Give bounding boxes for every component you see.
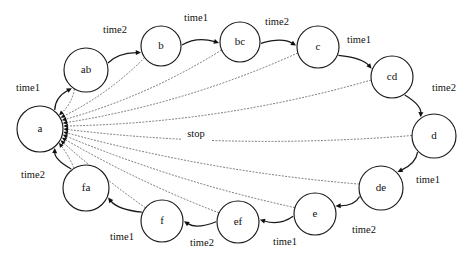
stop-label: stop (187, 128, 205, 139)
state-node-circle-b[interactable] (141, 26, 181, 66)
state-node-de[interactable]: de (359, 166, 403, 210)
edge-label-ef-to-f: time2 (190, 237, 214, 248)
transition-edge-ef-to-f (188, 222, 216, 226)
stop-edge-d-to-a (68, 130, 412, 142)
state-node-c[interactable]: c (297, 26, 339, 68)
state-node-ef[interactable]: ef (217, 201, 259, 243)
arrowhead-e-to-ef (260, 219, 266, 224)
edge-label-f-to-fa: time1 (110, 231, 134, 242)
arrowhead-b-to-bc (213, 39, 219, 44)
state-diagram-container: aabbbcccdddeeefffa time1time2time1time2t… (0, 0, 474, 262)
state-node-b[interactable]: b (141, 26, 181, 66)
state-node-cd[interactable]: cd (371, 56, 413, 98)
state-node-circle-fa[interactable] (63, 165, 109, 211)
state-node-circle-cd[interactable] (371, 56, 413, 98)
state-node-ab[interactable]: ab (64, 48, 108, 92)
transition-edge-e-to-ef (264, 216, 293, 222)
transition-edge-cd-to-d (405, 95, 421, 113)
transition-edge-bc-to-c (261, 40, 292, 43)
edge-label-bc-to-c: time2 (265, 16, 289, 27)
state-node-circle-d[interactable] (412, 114, 456, 158)
arrowhead-cd-to-d (418, 112, 423, 117)
edge-label-d-to-de: time1 (416, 174, 440, 185)
edge-label-fa-to-a: time2 (21, 169, 45, 180)
arrowhead-fa-to-a (52, 148, 57, 153)
edge-label-a-to-ab: time1 (16, 82, 40, 93)
edge-label-cd-to-d: time2 (432, 82, 456, 93)
state-node-circle-e[interactable] (294, 193, 336, 235)
transition-edge-de-to-e (340, 196, 360, 205)
state-node-d[interactable]: d (412, 114, 456, 158)
state-node-circle-f[interactable] (141, 200, 183, 242)
state-node-e[interactable]: e (294, 193, 336, 235)
stop-label-group: stop (181, 128, 211, 141)
transition-edge-a-to-ab (55, 90, 68, 110)
transition-edge-b-to-bc (182, 40, 215, 45)
arrowhead-stop-d-to-a (64, 127, 69, 131)
edge-label-de-to-e: time2 (352, 224, 376, 235)
state-node-a[interactable]: a (17, 106, 63, 152)
edge-label-ab-to-b: time2 (103, 24, 127, 35)
edge-label-e-to-ef: time1 (273, 236, 297, 247)
state-node-circle-c[interactable] (297, 26, 339, 68)
transition-edge-c-to-cd (338, 55, 368, 65)
state-node-f[interactable]: f (141, 200, 183, 242)
transition-edge-f-to-fa (111, 201, 142, 212)
state-nodes-group: aabbbcccdddeeefffa (17, 22, 456, 243)
edge-label-b-to-bc: time1 (184, 12, 208, 23)
state-node-fa[interactable]: fa (63, 165, 109, 211)
transition-edge-fa-to-a (55, 152, 72, 169)
arrowhead-ab-to-b (136, 50, 141, 55)
state-node-circle-de[interactable] (359, 166, 403, 210)
state-diagram-canvas: aabbbcccdddeeefffa time1time2time1time2t… (0, 0, 474, 262)
state-node-circle-a[interactable] (17, 106, 63, 152)
state-node-bc[interactable]: bc (220, 22, 260, 62)
transition-edge-d-to-de (401, 152, 417, 170)
transition-edge-ab-to-b (108, 53, 137, 63)
state-node-circle-bc[interactable] (220, 22, 260, 62)
edge-label-c-to-cd: time1 (347, 34, 371, 45)
stop-edge-cd-to-a (67, 80, 370, 126)
state-node-circle-ef[interactable] (217, 201, 259, 243)
arrowhead-de-to-e (335, 203, 340, 208)
arrowhead-stop-cd-to-a (63, 124, 68, 128)
state-node-circle-ab[interactable] (64, 48, 108, 92)
